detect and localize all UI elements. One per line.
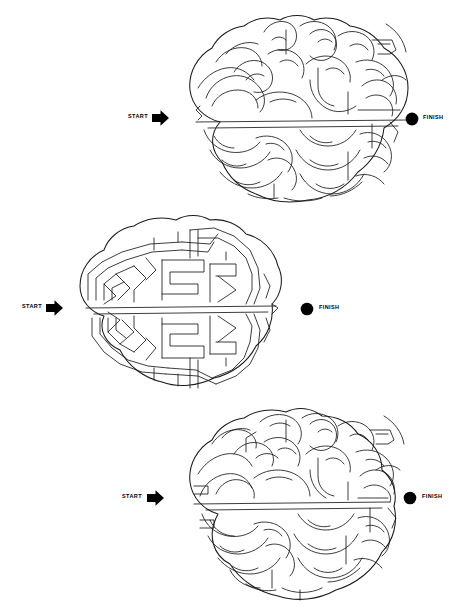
finish-label-2: FINISH xyxy=(319,305,339,311)
maze-3-artwork xyxy=(160,408,430,608)
start-label-2: START xyxy=(22,304,42,310)
maze-puzzle-1: START FINISH xyxy=(0,0,474,210)
maze-puzzle-3: START FINISH xyxy=(0,404,474,612)
start-label-1: START xyxy=(128,114,148,120)
worksheet-page: START FINISH xyxy=(0,0,474,612)
maze-puzzle-2: START FINISH xyxy=(0,208,474,404)
maze-1-artwork xyxy=(160,10,430,210)
maze-2-artwork xyxy=(58,212,318,404)
start-label-3: START xyxy=(122,494,142,500)
